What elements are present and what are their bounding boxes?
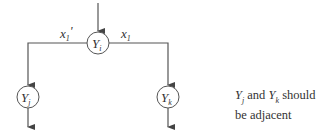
branch-left [28,43,87,85]
node-yk: Yk [157,86,179,127]
edge-label-x1: x1 [120,26,131,43]
edge-label-x1-prime: x1' [59,23,73,43]
node-yj: Yj [17,86,39,127]
state-diagram: Yi x1' x1 Yj Yk Yj and Yk should be adja… [0,0,330,131]
branch-right [109,43,168,85]
node-yi: Yi [87,32,109,54]
adjacency-note: Yj and Yk should be adjacent [235,88,330,123]
